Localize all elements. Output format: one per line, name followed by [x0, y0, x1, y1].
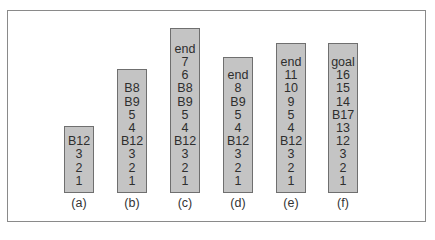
stack-cell: 1 [129, 175, 136, 188]
stack-d: end 8 B9 5 4 B12 3 2 1 [223, 57, 253, 193]
stack-cell: 3 [340, 148, 347, 161]
stack-cell: 3 [182, 148, 189, 161]
stack-cell: 8 [235, 82, 242, 95]
stack-cell: end [175, 43, 196, 56]
stack-c: end 7 6 B8 B9 5 4 B12 3 2 1 [170, 28, 200, 193]
stack-cell: 9 [288, 96, 295, 109]
stack-cell: 2 [76, 162, 83, 175]
stack-cell: 1 [76, 175, 83, 188]
stack-cell: 5 [288, 109, 295, 122]
stack-cell: 2 [288, 162, 295, 175]
stack-e-caption: (e) [276, 196, 306, 210]
stack-f-caption: (f) [328, 196, 358, 210]
stack-cell: 2 [129, 162, 136, 175]
stack-cell: B17 [332, 109, 354, 122]
stack-cell: 5 [182, 109, 189, 122]
stack-cell: 1 [340, 175, 347, 188]
stack-cell: 3 [235, 148, 242, 161]
stack-b: B8 B9 5 4 B12 3 2 1 [117, 69, 147, 193]
stack-cell: 15 [336, 82, 350, 95]
stack-cell: B9 [124, 96, 139, 109]
stack-cell: 1 [182, 175, 189, 188]
stack-cell: 5 [235, 109, 242, 122]
stack-cell: B9 [177, 96, 192, 109]
stack-e: end 11 10 9 5 4 B12 3 2 1 [276, 43, 306, 193]
stack-a-caption: (a) [64, 196, 94, 210]
stack-a: B12 3 2 1 [64, 126, 94, 193]
stack-cell: 1 [235, 175, 242, 188]
stack-c-caption: (c) [170, 196, 200, 210]
stack-d-caption: (d) [223, 196, 253, 210]
stack-cell: 3 [129, 148, 136, 161]
stack-cell: 5 [129, 109, 136, 122]
stack-b-caption: (b) [117, 196, 147, 210]
stack-cell: 2 [235, 162, 242, 175]
stack-cell: B9 [230, 96, 245, 109]
stack-cell: 2 [340, 162, 347, 175]
stack-cell: 3 [288, 148, 295, 161]
stack-cell: B8 [124, 82, 139, 95]
stack-cell: B8 [177, 82, 192, 95]
stack-cell: 3 [76, 148, 83, 161]
stack-cell: 1 [288, 175, 295, 188]
stack-cell: 10 [284, 82, 298, 95]
stack-cell: 2 [182, 162, 189, 175]
stack-f: goal 16 15 14 B17 13 12 3 2 1 [328, 43, 358, 193]
stack-cell: 14 [336, 96, 350, 109]
